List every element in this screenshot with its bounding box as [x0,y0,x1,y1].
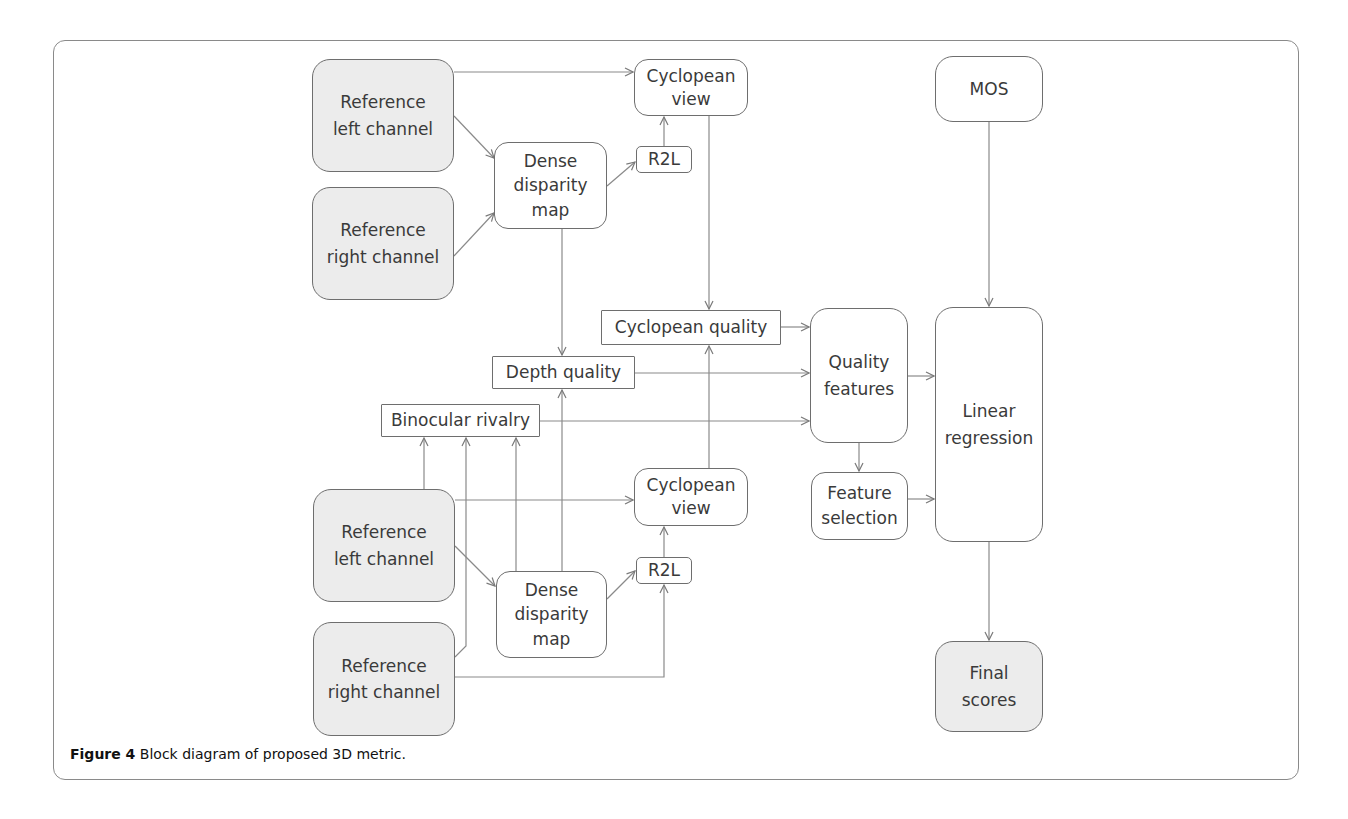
linear-regression: Linear regression [935,307,1043,542]
r2l-top: R2L [636,146,692,173]
depth-quality: Depth quality [492,356,635,389]
reference-right-channel-bottom: Reference right channel [313,622,455,736]
reference-left-channel-bottom: Reference left channel [313,489,455,602]
reference-left-channel-top: Reference left channel [312,59,454,172]
binocular-rivalry: Binocular rivalry [381,404,540,437]
connector-lines [0,0,1348,819]
final-scores: Final scores [935,641,1043,732]
quality-features: Quality features [810,308,908,443]
mos-node: MOS [935,56,1043,122]
cyclopean-quality: Cyclopean quality [601,310,781,345]
dense-disparity-map-top: Dense disparity map [494,142,607,229]
dense-disparity-map-bottom: Dense disparity map [496,571,607,658]
cyclopean-view-top: Cyclopean view [634,59,748,116]
feature-selection: Feature selection [811,472,908,540]
reference-right-channel-top: Reference right channel [312,187,454,300]
r2l-bottom: R2L [636,557,692,584]
figure-caption-label: Figure 4 [70,746,135,762]
figure-caption: Figure 4 Block diagram of proposed 3D me… [70,746,406,762]
figure-caption-text: Block diagram of proposed 3D metric. [135,746,406,762]
cyclopean-view-bottom: Cyclopean view [634,468,748,526]
